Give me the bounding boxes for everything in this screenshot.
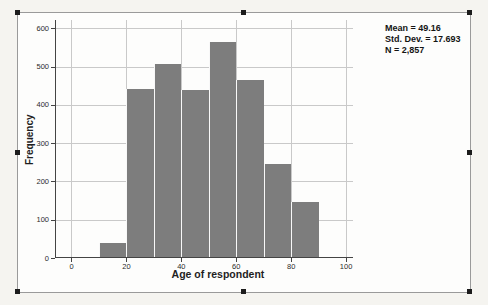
y-axis-tick bbox=[51, 258, 55, 259]
x-axis-tick bbox=[181, 258, 182, 262]
y-axis-tick bbox=[51, 143, 55, 144]
chart-object[interactable]: Frequency Age of respondent Mean = 49.16… bbox=[17, 12, 471, 293]
stats-mean-line: Mean = 49.16 bbox=[385, 23, 461, 34]
histogram-bar bbox=[126, 89, 153, 258]
y-tick-label: 600 bbox=[18, 24, 49, 33]
y-axis-tick bbox=[51, 67, 55, 68]
gridline-vertical bbox=[71, 20, 72, 258]
x-axis-tick bbox=[71, 258, 72, 262]
x-axis-line bbox=[55, 257, 353, 258]
gridline-vertical bbox=[346, 20, 347, 258]
histogram-bar bbox=[181, 90, 208, 258]
resize-handle-top-right[interactable] bbox=[467, 10, 472, 15]
x-tick-label: 100 bbox=[331, 262, 361, 271]
y-axis-tick bbox=[51, 105, 55, 106]
x-tick-label: 40 bbox=[166, 262, 196, 271]
output-viewer-canvas: Frequency Age of respondent Mean = 49.16… bbox=[0, 0, 488, 305]
y-tick-label: 0 bbox=[18, 254, 49, 263]
gridline-horizontal bbox=[55, 67, 353, 68]
resize-handle-bottom-center[interactable] bbox=[241, 289, 246, 294]
histogram-bar bbox=[154, 64, 181, 258]
resize-handle-middle-right[interactable] bbox=[467, 150, 472, 155]
resize-handle-bottom-right[interactable] bbox=[467, 289, 472, 294]
stats-stddev-line: Std. Dev. = 17.693 bbox=[385, 34, 461, 45]
plot-area bbox=[55, 20, 353, 258]
gridline-horizontal bbox=[55, 28, 353, 29]
histogram-bar bbox=[99, 243, 126, 258]
y-tick-label: 400 bbox=[18, 100, 49, 109]
y-tick-label: 500 bbox=[18, 62, 49, 71]
resize-handle-middle-left[interactable] bbox=[15, 150, 20, 155]
x-tick-label: 80 bbox=[276, 262, 306, 271]
y-axis-tick bbox=[51, 220, 55, 221]
y-tick-label: 100 bbox=[18, 215, 49, 224]
x-axis-tick bbox=[291, 258, 292, 262]
histogram-bar bbox=[209, 42, 236, 258]
resize-handle-top-center[interactable] bbox=[241, 10, 246, 15]
y-tick-label: 200 bbox=[18, 177, 49, 186]
stats-n-line: N = 2,857 bbox=[385, 45, 461, 56]
resize-handle-top-left[interactable] bbox=[15, 10, 20, 15]
stats-annotation: Mean = 49.16 Std. Dev. = 17.693 N = 2,85… bbox=[385, 23, 461, 56]
x-axis-tick bbox=[236, 258, 237, 262]
histogram-bar bbox=[291, 202, 318, 258]
histogram-bar bbox=[264, 164, 291, 258]
y-axis-tick bbox=[51, 181, 55, 182]
y-tick-label: 300 bbox=[18, 139, 49, 148]
x-tick-label: 0 bbox=[56, 262, 86, 271]
histogram-bar bbox=[236, 80, 263, 258]
x-axis-tick bbox=[346, 258, 347, 262]
y-axis-tick bbox=[51, 28, 55, 29]
x-tick-label: 20 bbox=[111, 262, 141, 271]
x-axis-tick bbox=[126, 258, 127, 262]
y-axis-line bbox=[55, 20, 56, 258]
resize-handle-bottom-left[interactable] bbox=[15, 289, 20, 294]
x-tick-label: 60 bbox=[221, 262, 251, 271]
